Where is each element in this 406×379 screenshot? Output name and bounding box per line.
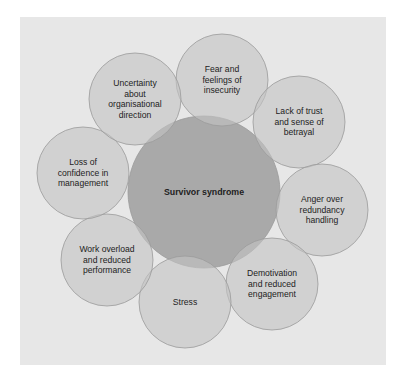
- satellite-label-work-overload: Work overload and reduced performance: [79, 244, 134, 276]
- satellite-label-stress: Stress: [173, 297, 197, 308]
- satellite-label-loss-of-confidence: Loss of confidence in management: [58, 157, 109, 189]
- satellite-label-anger: Anger over redundancy handling: [300, 194, 345, 226]
- satellite-label-demotivation: Demotivation and reduced engagement: [247, 268, 297, 300]
- center-label: Survivor syndrome: [164, 187, 244, 198]
- satellite-label-lack-of-trust: Lack of trust and sense of betrayal: [274, 106, 323, 138]
- satellite-label-fear: Fear and feelings of insecurity: [202, 64, 241, 96]
- satellite-label-uncertainty: Uncertainty about organisational directi…: [108, 78, 162, 120]
